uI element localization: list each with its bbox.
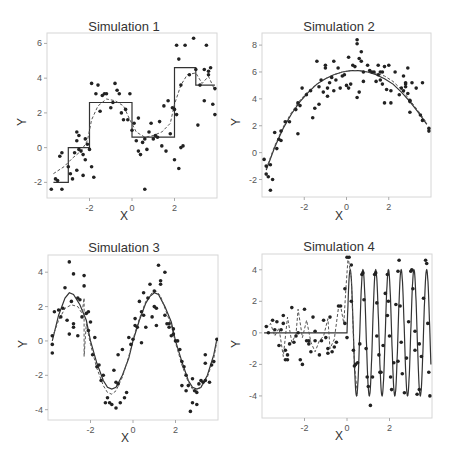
data-point (170, 334, 174, 338)
plot-frame (48, 255, 218, 420)
data-point (383, 65, 387, 69)
data-point (362, 80, 366, 84)
fitted-line (266, 257, 357, 396)
data-point (75, 139, 79, 143)
data-point (366, 64, 370, 68)
data-point (400, 86, 404, 90)
data-point (213, 87, 217, 91)
data-point (155, 324, 159, 328)
x-tick-label: 0 (344, 423, 349, 433)
data-point (152, 137, 156, 141)
data-point (196, 123, 200, 127)
data-point (60, 188, 64, 192)
data-point (350, 300, 354, 304)
data-point (404, 85, 408, 89)
data-point (372, 70, 376, 74)
data-point (179, 83, 183, 87)
data-point (355, 96, 359, 100)
data-point (377, 353, 381, 357)
data-point (119, 401, 123, 405)
data-point (84, 158, 88, 162)
data-point (199, 379, 203, 383)
data-point (116, 382, 120, 386)
y-tick-label: -4 (35, 405, 43, 415)
data-point (160, 144, 164, 148)
data-point (370, 70, 374, 74)
data-point (82, 284, 86, 288)
data-point (275, 147, 279, 151)
data-point (99, 379, 103, 383)
data-point (355, 42, 359, 46)
data-point (271, 318, 275, 322)
data-point (347, 255, 351, 259)
data-point (95, 365, 99, 369)
data-point (403, 391, 407, 395)
data-point (138, 300, 142, 304)
data-point (300, 86, 304, 90)
data-point (411, 287, 415, 291)
data-point (139, 153, 143, 157)
data-point (286, 358, 290, 362)
data-point (51, 343, 55, 347)
data-point (269, 163, 273, 167)
data-point (130, 129, 134, 133)
data-point (92, 175, 96, 179)
data-point (332, 59, 336, 63)
data-point (415, 393, 419, 397)
data-point (401, 372, 405, 376)
data-point (319, 78, 323, 82)
data-point (172, 327, 176, 331)
data-point (204, 379, 208, 383)
y-tick-label: 0 (38, 336, 43, 346)
data-point (317, 102, 321, 106)
data-point (282, 322, 286, 326)
data-point (209, 66, 213, 70)
data-point (142, 313, 146, 317)
data-point (195, 403, 199, 407)
data-point (384, 292, 388, 296)
data-point (177, 167, 181, 171)
data-point (159, 282, 163, 286)
data-point (341, 74, 345, 78)
x-tick-label: -2 (86, 425, 94, 435)
data-point (269, 189, 273, 193)
data-point (195, 391, 199, 395)
y-tick-label: 2 (37, 108, 42, 118)
data-point (124, 108, 128, 112)
data-point (337, 304, 341, 308)
data-point (63, 286, 67, 290)
data-point (163, 313, 167, 317)
data-point (178, 348, 182, 352)
data-point (140, 341, 144, 345)
data-point (108, 401, 112, 405)
y-tick-label: 4 (38, 267, 43, 277)
x-tick-label: -2 (300, 202, 308, 212)
data-point (283, 120, 287, 124)
data-point (131, 337, 135, 341)
data-point (120, 111, 124, 115)
plot-area: -202-20246 (34, 33, 217, 213)
data-point (386, 314, 390, 318)
plot-frame (262, 33, 431, 197)
data-point (188, 73, 192, 77)
data-point (69, 172, 73, 176)
data-point (368, 69, 372, 73)
data-point (317, 85, 321, 89)
data-point (193, 389, 197, 393)
x-tick-label: 2 (386, 202, 391, 212)
data-point (408, 100, 412, 104)
data-point (347, 86, 351, 90)
data-point (80, 315, 84, 319)
panel-title: Simulation 4 (303, 239, 375, 254)
data-point (126, 118, 130, 122)
data-point (60, 151, 64, 155)
data-point (313, 339, 317, 343)
y-tick-label: -2 (35, 370, 43, 380)
data-point (375, 301, 379, 305)
y-tick-label: 4 (37, 73, 42, 83)
data-point (271, 178, 275, 182)
data-point (296, 331, 300, 335)
y-tick-label: 4 (252, 265, 257, 275)
data-point (338, 86, 342, 90)
data-point (191, 401, 195, 405)
